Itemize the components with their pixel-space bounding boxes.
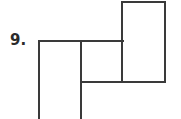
figure-line-group xyxy=(39,2,165,119)
composite-rectilinear-figure xyxy=(0,0,181,119)
figure-page: 9. xyxy=(0,0,181,119)
